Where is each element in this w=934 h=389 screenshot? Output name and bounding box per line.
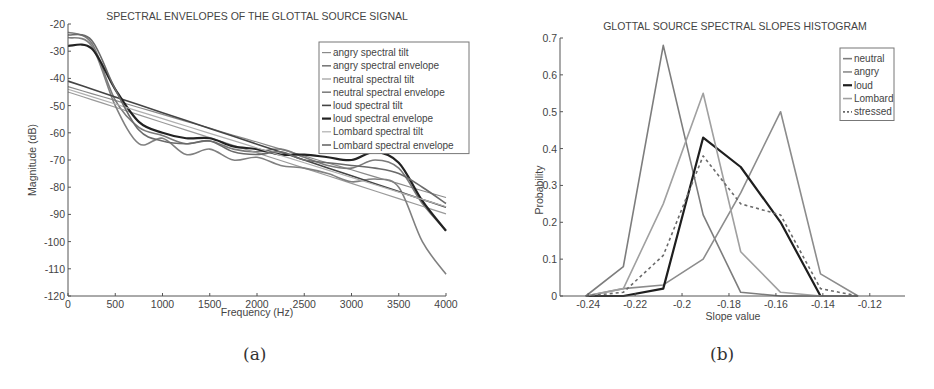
y-tick-label: -120: [44, 290, 65, 302]
spectral-slopes-histogram: GLOTTAL SOURCE SPECTRAL SLOPES HISTOGRAM…: [533, 20, 905, 322]
legend: neutralangryloudLombardstressed: [840, 48, 894, 121]
x-tick-label: -0.16: [764, 298, 788, 310]
x-tick-label: -0.24: [576, 298, 600, 310]
legend-label: Lombard spectral envelope: [333, 140, 454, 151]
y-tick-label: 0: [551, 290, 557, 302]
x-tick-label: 2500: [293, 298, 317, 310]
legend-label: Lombard spectral tilt: [333, 126, 423, 137]
x-tick-label: 500: [106, 298, 124, 310]
x-tick-label: -0.14: [811, 298, 835, 310]
x-tick-label: 4000: [434, 298, 458, 310]
legend-label: loud: [854, 80, 873, 91]
y-tick-label: -40: [50, 72, 65, 84]
x-tick-label: -0.18: [717, 298, 741, 310]
caption-a: (a): [243, 344, 266, 364]
series-line-loud: [586, 138, 858, 296]
y-axis-label: Magnitude (dB): [26, 124, 38, 196]
x-tick-label: 3000: [340, 298, 364, 310]
legend-label: stressed: [854, 106, 892, 117]
chart-title: SPECTRAL ENVELOPES OF THE GLOTTAL SOURCE…: [106, 10, 408, 22]
series-line-angry: [586, 112, 858, 296]
y-tick-label: 0.6: [542, 69, 557, 81]
spectral-envelopes-chart: SPECTRAL ENVELOPES OF THE GLOTTAL SOURCE…: [26, 10, 469, 318]
y-tick-label: 0.2: [542, 216, 557, 228]
y-tick-label: -110: [45, 263, 65, 275]
legend: angry spectral tiltangry spectral envelo…: [319, 42, 469, 154]
x-tick-label: -0.12: [858, 298, 882, 310]
x-axis-label: Slope value: [706, 310, 761, 322]
x-axis-label: Frequency (Hz): [221, 306, 293, 318]
y-tick-label: -100: [44, 236, 65, 248]
x-tick-label: -0.22: [623, 298, 647, 310]
x-tick-label: 3500: [387, 298, 411, 310]
legend-label: angry: [854, 66, 879, 77]
y-tick-label: -50: [50, 100, 65, 112]
legend-label: Lombard: [854, 93, 893, 104]
legend-label: neutral spectral tilt: [333, 74, 414, 85]
y-tick-label: -20: [50, 18, 65, 30]
y-tick-label: -80: [50, 181, 65, 193]
y-tick-label: 0.1: [542, 253, 557, 265]
x-tick-label: -0.2: [673, 298, 691, 310]
y-axis-label: Probability: [533, 165, 545, 215]
legend-label: angry spectral tilt: [333, 47, 409, 58]
y-tick-label: -70: [50, 154, 65, 166]
legend-label: angry spectral envelope: [333, 60, 440, 71]
y-tick-label: -90: [50, 208, 65, 220]
series-line-lombard: [586, 93, 858, 296]
chart-title: GLOTTAL SOURCE SPECTRAL SLOPES HISTOGRAM: [603, 20, 867, 32]
y-tick-label: -30: [50, 45, 65, 57]
legend-label: loud spectral tilt: [333, 100, 403, 111]
caption-b: (b): [710, 344, 734, 364]
y-tick-label: 0.4: [542, 143, 557, 155]
y-tick-label: -60: [50, 127, 65, 139]
plot-area: [586, 45, 858, 296]
x-tick-label: 0: [65, 298, 71, 310]
legend-label: neutral: [854, 53, 885, 64]
figure: SPECTRAL ENVELOPES OF THE GLOTTAL SOURCE…: [0, 0, 934, 389]
y-tick-label: 0.5: [542, 106, 557, 118]
x-tick-label: 1000: [151, 298, 175, 310]
legend-label: loud spectral envelope: [333, 113, 434, 124]
y-tick-label: 0.7: [542, 32, 557, 44]
x-tick-label: 1500: [198, 298, 222, 310]
legend-label: neutral spectral envelope: [333, 87, 445, 98]
